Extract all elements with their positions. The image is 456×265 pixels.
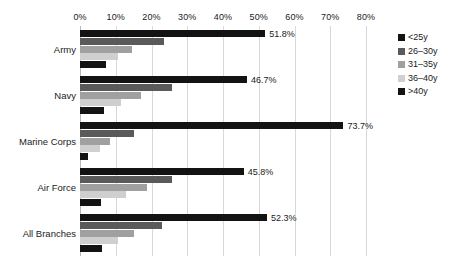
bar[interactable]	[80, 92, 141, 99]
bar[interactable]	[80, 99, 121, 106]
bar[interactable]	[80, 46, 132, 53]
y-axis-category-labels: ArmyNavyMarine CorpsAir ForceAll Branche…	[0, 26, 76, 256]
legend: <25y26–30y31–35y36–40y>40y	[398, 31, 456, 99]
bar-group: 46.7%	[80, 72, 366, 118]
bar[interactable]	[80, 168, 244, 175]
x-tick-label: 70%	[321, 12, 339, 22]
legend-item[interactable]: >40y	[398, 85, 456, 99]
bar-row	[80, 176, 366, 183]
bar[interactable]	[80, 230, 134, 237]
y-category-label: Air Force	[37, 182, 76, 193]
legend-label: 26–30y	[408, 47, 438, 56]
bar-row	[80, 46, 366, 53]
bar[interactable]	[80, 84, 172, 91]
x-tick-label: 0%	[73, 12, 86, 22]
bar-row	[80, 184, 366, 191]
x-tick-label: 10%	[107, 12, 125, 22]
bar-row	[80, 191, 366, 198]
bar-group: 52.3%	[80, 210, 366, 256]
bar-row	[80, 245, 366, 252]
bar-row	[80, 138, 366, 145]
bar[interactable]	[80, 199, 101, 206]
bar[interactable]	[80, 222, 162, 229]
bar-row	[80, 237, 366, 244]
legend-item[interactable]: 31–35y	[398, 58, 456, 72]
plot-area: 51.8%46.7%73.7%45.8%52.3%	[80, 26, 366, 256]
bar[interactable]	[80, 138, 110, 145]
x-tick-label: 80%	[357, 12, 375, 22]
x-tick-label: 30%	[178, 12, 196, 22]
legend-item[interactable]: <25y	[398, 31, 456, 45]
bar-group: 73.7%	[80, 118, 366, 164]
bar-row	[80, 130, 366, 137]
legend-swatch	[398, 75, 405, 82]
bar-group: 45.8%	[80, 164, 366, 210]
bar-row: 52.3%	[80, 214, 366, 221]
x-tick-label: 50%	[250, 12, 268, 22]
bar-row	[80, 199, 366, 206]
bar-row	[80, 230, 366, 237]
x-axis-tick-labels: 0%10%20%30%40%50%60%70%80%	[0, 12, 456, 24]
y-category-label: Navy	[54, 90, 76, 101]
bar[interactable]	[80, 176, 172, 183]
legend-swatch	[398, 88, 405, 95]
bar-row: 73.7%	[80, 122, 366, 129]
bar-chart: 0%10%20%30%40%50%60%70%80% ArmyNavyMarin…	[0, 0, 456, 265]
bar-row	[80, 53, 366, 60]
legend-label: >40y	[408, 87, 428, 96]
bar[interactable]	[80, 130, 134, 137]
bar[interactable]	[80, 245, 102, 252]
bar[interactable]	[80, 145, 100, 152]
bar-row	[80, 222, 366, 229]
bar-row	[80, 99, 366, 106]
bar[interactable]	[80, 76, 247, 83]
bar-row	[80, 153, 366, 160]
bar[interactable]	[80, 122, 343, 129]
bar[interactable]	[80, 214, 267, 221]
legend-swatch	[398, 61, 405, 68]
bar-row	[80, 38, 366, 45]
bar[interactable]	[80, 61, 106, 68]
legend-item[interactable]: 26–30y	[398, 45, 456, 59]
bar[interactable]	[80, 53, 118, 60]
gridline	[366, 26, 367, 256]
legend-swatch	[398, 34, 405, 41]
bar[interactable]	[80, 184, 147, 191]
bar-group: 51.8%	[80, 26, 366, 72]
bar-row	[80, 92, 366, 99]
bar-groups: 51.8%46.7%73.7%45.8%52.3%	[80, 26, 366, 256]
legend-item[interactable]: 36–40y	[398, 72, 456, 86]
x-tick-label: 40%	[214, 12, 232, 22]
bar[interactable]	[80, 237, 118, 244]
bar[interactable]	[80, 107, 104, 114]
bar[interactable]	[80, 30, 265, 37]
legend-label: 31–35y	[408, 60, 438, 69]
x-tick-label: 60%	[285, 12, 303, 22]
bar-row: 46.7%	[80, 76, 366, 83]
y-category-label: Marine Corps	[19, 136, 76, 147]
legend-label: <25y	[408, 33, 428, 42]
bar[interactable]	[80, 153, 88, 160]
legend-swatch	[398, 48, 405, 55]
bar-row	[80, 61, 366, 68]
y-category-label: All Branches	[23, 228, 76, 239]
legend-label: 36–40y	[408, 74, 438, 83]
bar-row: 51.8%	[80, 30, 366, 37]
bar-row	[80, 84, 366, 91]
y-category-label: Army	[54, 44, 76, 55]
bar[interactable]	[80, 191, 126, 198]
bar-row	[80, 107, 366, 114]
bar[interactable]	[80, 38, 164, 45]
bar-row: 45.8%	[80, 168, 366, 175]
bar-row	[80, 145, 366, 152]
x-tick-label: 20%	[142, 12, 160, 22]
